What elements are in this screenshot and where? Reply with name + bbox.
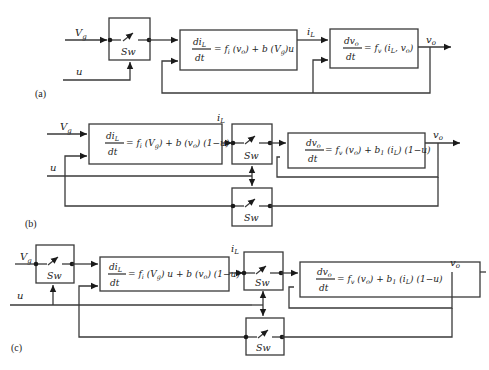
capacitor-voltage-block: dvo dt = fv (vo) + b1 (iL) (1−u) (288, 133, 431, 168)
svg-text:dt: dt (308, 154, 318, 164)
switch-label: Sw (256, 342, 271, 353)
vg-label: Vg (75, 27, 87, 41)
switch-block-top: Sw (242, 252, 284, 290)
il-label: iL (307, 26, 315, 39)
il-label: iL (231, 243, 239, 256)
panel-a: Vg u Sw diL dt = fi (vo) + b (Vg)u iL (35, 18, 451, 100)
switch-block-input: Sw (34, 245, 75, 283)
switch-block-top: Sw (231, 124, 273, 164)
switch-block: Sw (108, 18, 152, 60)
vo-label: vo (433, 129, 443, 142)
inductor-current-block: diL dt = fi (vo) + b (Vg)u (180, 30, 297, 70)
switch-label: Sw (47, 270, 62, 281)
vg-label: Vg (60, 121, 72, 135)
vg-label: Vg (20, 251, 32, 265)
u-label: u (50, 162, 56, 173)
panel-label-a: (a) (35, 88, 46, 100)
il-label: iL (217, 112, 225, 125)
panel-label-c: (c) (11, 342, 22, 354)
svg-text:dt: dt (110, 278, 120, 288)
vo-feedback-to-voltage-block (313, 60, 328, 93)
vo-feedback-to-current-block (79, 286, 246, 337)
switch-block-bottom: Sw (231, 188, 273, 226)
u-label: u (17, 290, 23, 301)
panel-c: Vg Sw u diL dt = fi (Vg) u + b (vo) (1−u… (10, 243, 486, 355)
svg-text:dt: dt (319, 283, 329, 293)
switch-label: Sw (255, 277, 270, 288)
svg-text:dt: dt (108, 147, 118, 157)
panel-label-b: (b) (25, 218, 37, 230)
vo-feedback-to-bottom-switch (282, 308, 452, 337)
vo-label: vo (426, 34, 436, 47)
svg-text:dt: dt (346, 52, 356, 62)
switch-label: Sw (244, 150, 259, 161)
converter-block-diagrams: Vg u Sw diL dt = fi (vo) + b (Vg)u iL (0, 0, 489, 370)
vo-feedback-to-bottom-switch (270, 177, 438, 206)
switch-block-bottom: Sw (244, 318, 285, 355)
u-input-line (63, 62, 130, 80)
svg-text:dt: dt (195, 53, 205, 63)
panel-b: Vg u diL dt = fi (Vg) + b (vo) (1−u) iL … (25, 112, 460, 230)
switch-label: Sw (121, 46, 136, 57)
inductor-current-block: diL dt = fi (Vg) + b (vo) (1−u) (89, 124, 230, 164)
switch-label: Sw (244, 212, 259, 223)
capacitor-voltage-block: dvo dt = fv (iL, vo) (330, 29, 418, 68)
inductor-current-block: diL dt = fi (Vg) u + b (vo) (1−u) (100, 257, 240, 291)
u-label: u (76, 66, 82, 77)
